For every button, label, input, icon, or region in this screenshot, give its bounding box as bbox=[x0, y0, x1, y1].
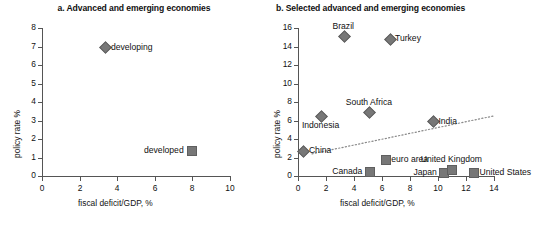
panel-b-marker-euro-area[interactable] bbox=[381, 155, 391, 165]
panel-a-x-tick-label: 10 bbox=[216, 183, 244, 193]
panel-b-x-tick-label: 6 bbox=[368, 183, 396, 193]
panel-b-x-tick bbox=[382, 177, 383, 181]
scatter-figure: a. Advanced and emerging economies 01234… bbox=[0, 0, 536, 231]
panel-b-x-tick-label: 12 bbox=[452, 183, 480, 193]
panel-a-y-tick bbox=[38, 28, 42, 29]
panel-a-marker-developed[interactable] bbox=[187, 146, 197, 156]
panel-a-x-axis-line bbox=[42, 176, 231, 177]
panel-a-x-tick bbox=[230, 177, 231, 181]
panel-b-y-tick-label: 10 bbox=[264, 78, 292, 88]
panel-a-x-tick-label: 2 bbox=[66, 183, 94, 193]
panel-b-x-tick bbox=[326, 177, 327, 181]
panel-b-point-label-india: India bbox=[438, 116, 457, 126]
panel-a-x-tick-label: 6 bbox=[141, 183, 169, 193]
panel-b-x-tick-label: 10 bbox=[424, 183, 452, 193]
panel-b: b. Selected advanced and emerging econom… bbox=[268, 0, 536, 231]
panel-b-point-label-japan: Japan bbox=[413, 167, 436, 177]
panel-b-x-tick-label: 8 bbox=[396, 183, 424, 193]
panel-b-marker-canada[interactable] bbox=[365, 167, 375, 177]
panel-b-x-tick bbox=[410, 177, 411, 181]
panel-a-x-tick bbox=[42, 177, 43, 181]
panel-b-point-label-turkey: Turkey bbox=[395, 33, 421, 43]
panel-a-x-tick bbox=[155, 177, 156, 181]
panel-a-point-label-developed: developed bbox=[144, 145, 184, 155]
panel-a-y-axis-title: policy rate % bbox=[12, 110, 22, 158]
panel-a-y-tick-label: 7 bbox=[8, 41, 36, 51]
panel-a-y-tick-label: 8 bbox=[8, 22, 36, 32]
panel-a-x-axis-title: fiscal deficit/GDP, % bbox=[78, 198, 153, 208]
panel-a-y-tick-label: 0 bbox=[8, 170, 36, 180]
panel-a-x-tick-label: 8 bbox=[178, 183, 206, 193]
panel-b-x-tick bbox=[354, 177, 355, 181]
panel-b-y-tick-label: 16 bbox=[264, 22, 292, 32]
panel-b-y-tick-label: 12 bbox=[264, 59, 292, 69]
panel-a-y-tick bbox=[38, 139, 42, 140]
panel-b-x-tick-label: 14 bbox=[480, 183, 508, 193]
panel-b-x-tick-label: 0 bbox=[284, 183, 312, 193]
panel-a-x-tick bbox=[80, 177, 81, 181]
panel-b-title: b. Selected advanced and emerging econom… bbox=[276, 3, 536, 13]
panel-a-x-tick bbox=[192, 177, 193, 181]
panel-b-y-axis-title: policy rate % bbox=[272, 110, 282, 158]
panel-b-x-axis-title: fiscal deficit/GDP, % bbox=[340, 198, 415, 208]
panel-b-y-tick-label: 8 bbox=[264, 96, 292, 106]
panel-a-y-tick bbox=[38, 102, 42, 103]
panel-b-point-label-canada: Canada bbox=[332, 166, 362, 176]
panel-a-y-tick bbox=[38, 84, 42, 85]
panel-a-point-label-developing: developing bbox=[111, 42, 153, 52]
panel-a-title: a. Advanced and emerging economies bbox=[0, 3, 268, 13]
panel-b-marker-united-states[interactable] bbox=[469, 168, 479, 178]
panel-b-x-tick-label: 2 bbox=[312, 183, 340, 193]
panel-b-y-tick-label: 14 bbox=[264, 41, 292, 51]
panel-b-x-tick bbox=[494, 177, 495, 181]
panel-b-x-tick bbox=[298, 177, 299, 181]
panel-a-y-tick bbox=[38, 65, 42, 66]
panel-b-point-label-indonesia: Indonesia bbox=[302, 120, 339, 130]
panel-a-y-tick-label: 5 bbox=[8, 78, 36, 88]
panel-a-y-tick bbox=[38, 158, 42, 159]
panel-b-point-label-united-kingdom: United Kingdom bbox=[421, 154, 482, 164]
panel-b-x-tick bbox=[466, 177, 467, 181]
panel-a-y-tick bbox=[38, 121, 42, 122]
panel-a-y-tick bbox=[38, 47, 42, 48]
panel-a-y-tick-label: 6 bbox=[8, 59, 36, 69]
panel-b-point-label-south-africa: South Africa bbox=[346, 97, 392, 107]
panel-b-y-tick-label: 0 bbox=[264, 170, 292, 180]
panel-a-x-tick-label: 4 bbox=[103, 183, 131, 193]
panel-a-x-tick-label: 0 bbox=[28, 183, 56, 193]
panel-a-y-axis-line bbox=[42, 28, 43, 177]
panel-a-y-tick-label: 4 bbox=[8, 96, 36, 106]
panel-b-point-label-china: China bbox=[309, 145, 331, 155]
panel-a: a. Advanced and emerging economies 01234… bbox=[0, 0, 268, 231]
panel-b-point-label-brazil: Brazil bbox=[333, 21, 355, 31]
panel-b-x-tick-label: 4 bbox=[340, 183, 368, 193]
panel-b-plot-area: 024681012141602468101214BrazilTurkeySout… bbox=[298, 28, 494, 176]
panel-a-plot-area: 0123456780246810developingdeveloped bbox=[42, 28, 230, 176]
panel-b-point-label-united-states: United States bbox=[480, 167, 532, 177]
panel-a-x-tick bbox=[117, 177, 118, 181]
panel-b-marker-united-kingdom[interactable] bbox=[447, 165, 457, 175]
